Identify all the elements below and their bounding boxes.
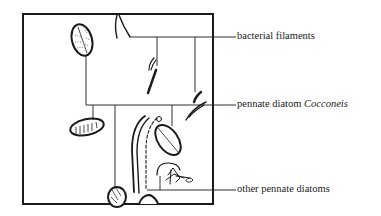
label-text: pennate diatom	[237, 98, 304, 109]
label-bacterial-filaments: bacterial filaments	[237, 31, 315, 42]
label-text: bacterial filaments	[237, 30, 315, 41]
frame-border	[23, 14, 213, 204]
cocconeis-diatom-shapes	[68, 22, 186, 207]
label-pennate-diatom-cocconeis: pennate diatom Cocconeis	[237, 99, 348, 110]
label-text: other pennate diatoms	[237, 183, 330, 194]
label-other-pennate-diatoms: other pennate diatoms	[237, 184, 330, 195]
label-italic-text: Cocconeis	[304, 98, 348, 109]
bacterial-filament-shapes	[116, 15, 207, 120]
